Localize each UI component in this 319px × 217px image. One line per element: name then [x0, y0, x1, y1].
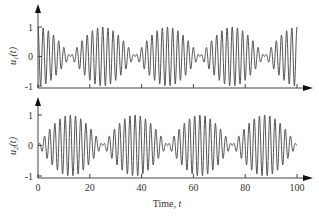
x-axis-label: Time, t: [153, 198, 182, 209]
y-tick-label: 0: [28, 140, 33, 151]
series-line-u2: [38, 115, 297, 176]
y-tick-label: 1: [28, 110, 33, 121]
y-axis-arrowhead-top: [35, 4, 41, 13]
x-ticks-top: [38, 84, 297, 88]
x-tick-label: 20: [85, 182, 95, 193]
x-axis-arrowhead-top: [303, 85, 313, 91]
y-axis-label-bottom: u2(t): [7, 136, 20, 155]
y-axis-label-top: u1(t): [7, 46, 20, 65]
x-ticks-bottom: 020406080100: [36, 174, 305, 193]
y-tick-label: -1: [25, 81, 33, 92]
y-tick-label: 1: [28, 22, 33, 33]
panel-top: -101 u1(t): [7, 4, 313, 92]
series-line-u1: [38, 27, 297, 86]
y-ticks-bottom: -101: [25, 110, 42, 182]
x-tick-label: 60: [188, 182, 198, 193]
x-tick-label: 0: [36, 182, 41, 193]
chart: -101 u1(t) -101 020406080100 u2(t) Time,…: [0, 0, 319, 217]
y-tick-label: 0: [28, 51, 33, 62]
y-tick-label: -1: [25, 171, 33, 182]
panel-bottom: -101 020406080100 u2(t) Time, t: [7, 97, 313, 209]
x-axis-arrowhead-bottom: [303, 175, 313, 181]
x-tick-label: 80: [240, 182, 250, 193]
x-tick-label: 40: [137, 182, 147, 193]
x-tick-label: 100: [290, 182, 305, 193]
y-ticks-top: -101: [25, 22, 42, 92]
y-axis-arrowhead-bottom: [35, 97, 41, 106]
